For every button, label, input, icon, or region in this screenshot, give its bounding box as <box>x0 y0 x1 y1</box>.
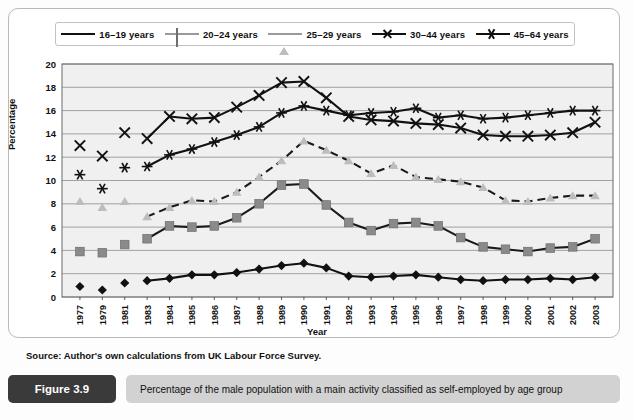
figure-caption-bar: Figure 3.9 Percentage of the male popula… <box>8 375 620 403</box>
x-axis-title: Year <box>0 326 634 337</box>
chart-card <box>8 8 620 338</box>
source-note: Source: Author's own calculations from U… <box>26 350 321 361</box>
legend-label: 25–29 years <box>306 29 361 40</box>
legend-label: 16–19 years <box>99 29 154 40</box>
figure-caption-text: Percentage of the male population with a… <box>126 375 620 403</box>
legend-label: 45–64 years <box>514 29 569 40</box>
diamond-marker-icon <box>61 28 95 40</box>
legend-label: 30–44 years <box>410 29 465 40</box>
figure-root: 16–19 years 20–24 years 25–29 years 30–4… <box>0 0 634 420</box>
chart-legend: 16–19 years 20–24 years 25–29 years 30–4… <box>55 22 575 46</box>
legend-label: 20–24 years <box>203 29 258 40</box>
legend-item-16-19[interactable]: 16–19 years <box>61 28 154 40</box>
legend-item-30-44[interactable]: 30–44 years <box>372 28 465 40</box>
triangle-marker-icon <box>268 28 302 40</box>
legend-item-20-24[interactable]: 20–24 years <box>165 28 258 40</box>
square-marker-icon <box>165 28 199 40</box>
legend-item-25-29[interactable]: 25–29 years <box>268 28 361 40</box>
figure-number-tag: Figure 3.9 <box>8 375 116 403</box>
legend-item-45-64[interactable]: 45–64 years <box>476 28 569 40</box>
y-axis-title: Percentage <box>6 99 17 150</box>
asterisk-marker-icon <box>476 28 510 40</box>
x-marker-icon <box>372 28 406 40</box>
